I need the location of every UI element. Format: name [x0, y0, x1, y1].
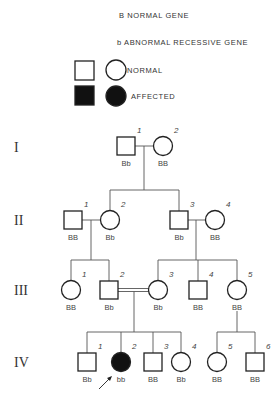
individual-index: 2	[120, 200, 126, 209]
normal-female-circle-icon	[228, 281, 247, 300]
legend-affected-female-icon	[106, 86, 126, 106]
normal-male-square-icon	[117, 137, 135, 155]
normal-female-circle-icon	[208, 353, 227, 372]
genotype-label: bb	[117, 375, 125, 384]
individual-index: 3	[164, 342, 169, 351]
individual-ii-4: 4BB	[206, 200, 232, 242]
individual-ii-3: 3Bb	[170, 200, 195, 242]
individual-index: 5	[228, 342, 233, 351]
individual-index: 1	[84, 200, 88, 209]
individual-i-2: 2BB	[154, 126, 180, 168]
individual-index: 4	[209, 270, 214, 279]
individual-index: 4	[226, 200, 231, 209]
legend-normal-gene: B NORMAL GENE	[119, 11, 189, 20]
individual-iv-6: 6BB	[246, 342, 271, 384]
individual-index: 3	[169, 270, 174, 279]
generation-labels: IIIIIIIV	[14, 140, 29, 370]
genotype-label: BB	[148, 375, 158, 384]
individual-index: 3	[190, 200, 195, 209]
normal-male-square-icon	[189, 281, 207, 299]
individual-iii-4: 4BB	[189, 270, 214, 312]
individual-index: 1	[98, 342, 102, 351]
individual-index: 2	[173, 126, 179, 135]
individual-i-1: 1Bb	[117, 126, 141, 168]
legend-affected-label: AFFECTED	[131, 92, 175, 101]
individual-index: 2	[119, 270, 125, 279]
individuals: 1Bb2BB1BB2Bb3Bb4BB1BB2Bb3Bb4BB5BB1Bb2bb3…	[62, 126, 272, 389]
genotype-label: BB	[212, 375, 222, 384]
normal-male-square-icon	[246, 353, 264, 371]
normal-male-square-icon	[64, 211, 82, 229]
genotype-label: Bb	[153, 303, 162, 312]
normal-male-square-icon	[144, 353, 162, 371]
legend-normal-female-icon	[106, 60, 126, 80]
individual-index: 5	[248, 270, 253, 279]
genotype-label: BB	[193, 303, 203, 312]
normal-female-circle-icon	[172, 353, 191, 372]
genotype-label: BB	[158, 159, 168, 168]
individual-iv-5: 5BB	[208, 342, 234, 384]
normal-male-square-icon	[78, 353, 96, 371]
genotype-label: BB	[250, 375, 260, 384]
genotype-label: BB	[232, 303, 242, 312]
normal-female-circle-icon	[206, 211, 225, 230]
legend-normal-male-icon	[75, 61, 94, 80]
proband-arrow-icon	[99, 376, 112, 389]
genotype-label: Bb	[82, 375, 91, 384]
genotype-label: BB	[210, 233, 220, 242]
legend-abnormal-gene: b ABNORMAL RECESSIVE GENE	[117, 38, 248, 47]
individual-iv-4: 4Bb	[172, 342, 198, 384]
normal-male-square-icon	[100, 281, 118, 299]
genotype-label: Bb	[104, 303, 113, 312]
normal-female-circle-icon	[154, 137, 173, 156]
genotype-label: BB	[66, 303, 76, 312]
genotype-label: BB	[68, 233, 78, 242]
individual-ii-2: 2Bb	[101, 200, 127, 242]
generation-label: IV	[14, 355, 29, 370]
pedigree-chart: B NORMAL GENE b ABNORMAL RECESSIVE GENE …	[0, 0, 277, 397]
normal-female-circle-icon	[149, 281, 168, 300]
individual-iv-1: 1Bb	[78, 342, 102, 384]
individual-index: 6	[266, 342, 271, 351]
generation-label: II	[14, 213, 24, 228]
individual-iii-1: 1BB	[62, 270, 87, 312]
individual-index: 1	[137, 126, 141, 135]
individual-iv-3: 3BB	[144, 342, 169, 384]
normal-female-circle-icon	[101, 211, 120, 230]
relationship-lines	[71, 146, 255, 353]
generation-label: I	[14, 140, 19, 155]
individual-index: 2	[131, 342, 137, 351]
legend-affected-male-icon	[75, 86, 94, 105]
individual-iv-2: 2bb	[99, 342, 137, 389]
individual-index: 4	[192, 342, 197, 351]
normal-male-square-icon	[170, 211, 188, 229]
individual-ii-1: 1BB	[64, 200, 88, 242]
legend: B NORMAL GENE b ABNORMAL RECESSIVE GENE …	[75, 11, 248, 106]
normal-female-circle-icon	[62, 281, 81, 300]
individual-index: 1	[82, 270, 86, 279]
genotype-label: Bb	[121, 159, 130, 168]
individual-iii-3: 3Bb	[149, 270, 175, 312]
genotype-label: Bb	[174, 233, 183, 242]
individual-iii-2: 2Bb	[100, 270, 125, 312]
genotype-label: Bb	[176, 375, 185, 384]
individual-iii-5: 5BB	[228, 270, 254, 312]
genotype-label: Bb	[105, 233, 114, 242]
affected-female-circle-icon	[112, 353, 131, 372]
legend-normal-label: NORMAL	[127, 66, 163, 75]
generation-label: III	[14, 283, 28, 298]
